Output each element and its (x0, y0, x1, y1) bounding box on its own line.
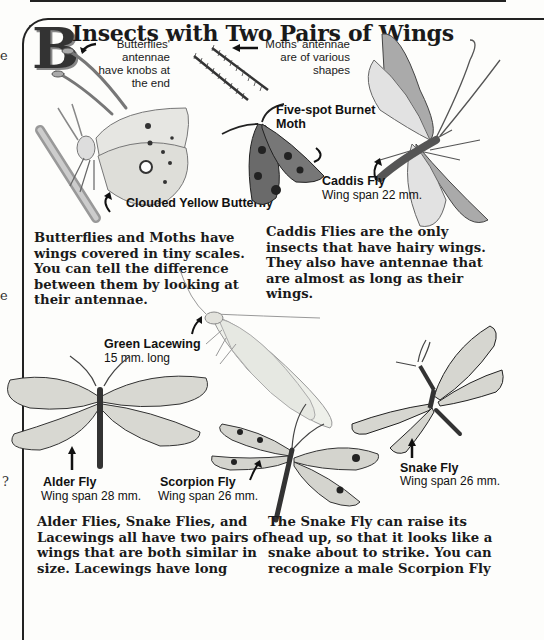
paragraph-snake-scorpion: The Snake Fly can raise its head up, so … (268, 514, 506, 576)
specimen-label-snake-fly: Snake Fly (400, 461, 458, 475)
paragraph-alder-snake-lacewing: Alder Flies, Snake Flies, and Lacewings … (37, 514, 269, 576)
specimen-detail-snake-fly: Wing span 26 mm. (400, 474, 500, 488)
